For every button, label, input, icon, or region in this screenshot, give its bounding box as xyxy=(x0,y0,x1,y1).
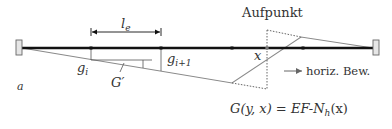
influence-line-diagram: Aufpunkt le gi gi+1 G′ x a horiz. Bew. G… xyxy=(0,0,392,129)
right-support xyxy=(373,40,379,55)
left-support xyxy=(16,40,22,55)
formula: G(y, x) = EF-Nh(x) xyxy=(230,101,348,118)
aufpunkt-label: Aufpunkt xyxy=(241,5,304,20)
aufpunkt-node xyxy=(265,46,269,50)
direction-label: horiz. Bew. xyxy=(306,64,370,78)
x-label: x xyxy=(254,48,262,63)
g-prime-label: G′ xyxy=(111,75,124,90)
slope-triangle-icon xyxy=(91,60,152,72)
g-i-label: gi xyxy=(77,60,88,77)
a-label: a xyxy=(17,80,24,93)
element-length-label: le xyxy=(121,16,131,33)
g-i1-label: gi+1 xyxy=(167,51,191,68)
